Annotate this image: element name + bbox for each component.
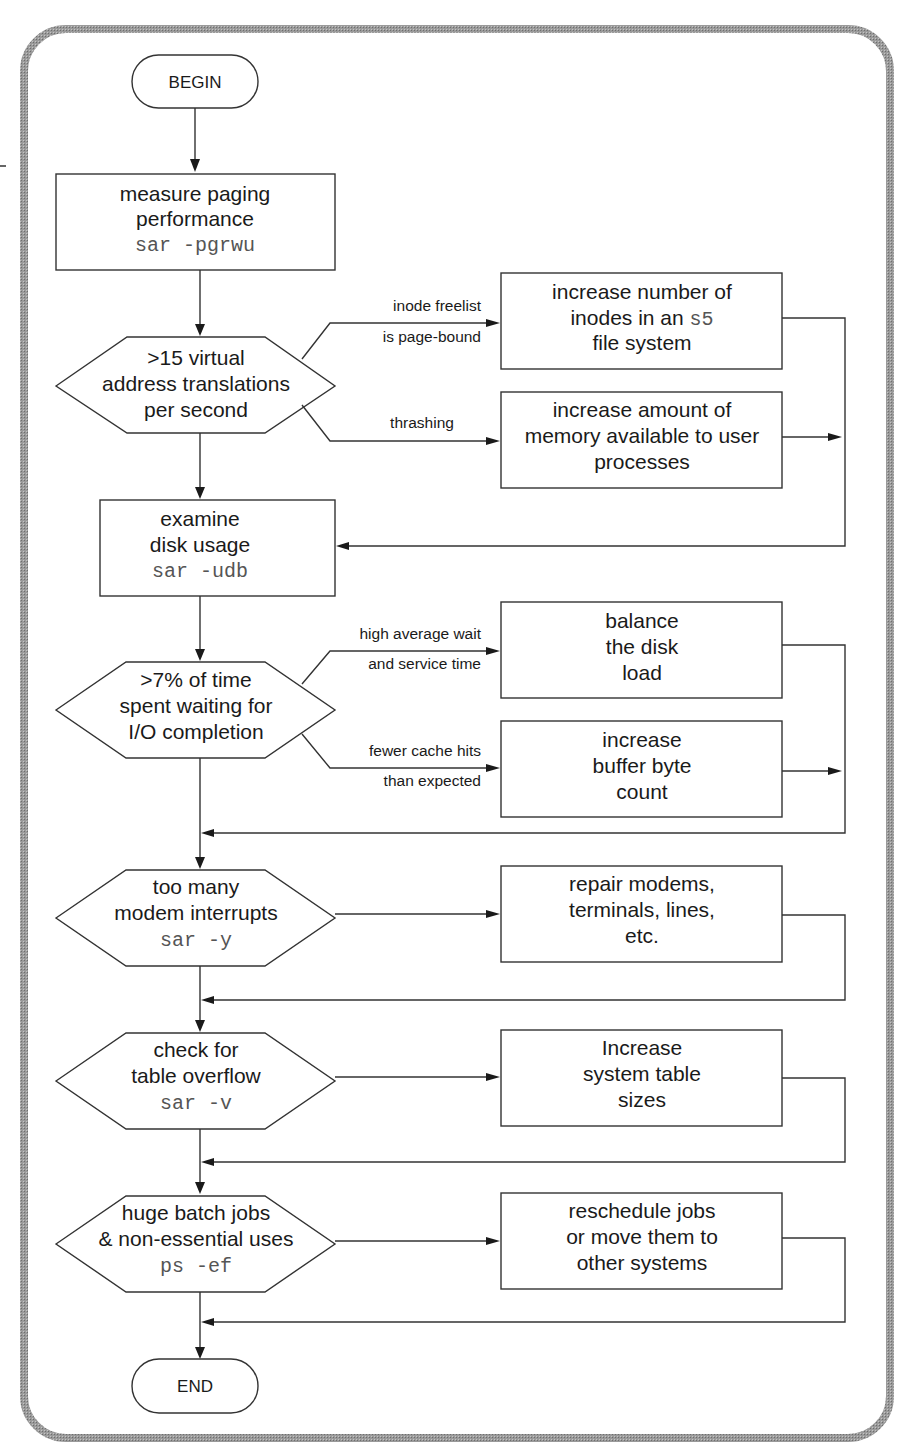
- arrow-down-icon: [195, 324, 205, 336]
- arrow-left-icon: [336, 542, 349, 550]
- arrow-down-icon: [195, 649, 205, 661]
- command-sar-v: sar -v: [160, 1092, 232, 1115]
- svg-text:than expected: than expected: [384, 772, 481, 789]
- command-s5: s5: [690, 308, 714, 331]
- svg-text:disk usage: disk usage: [150, 533, 250, 556]
- svg-text:etc.: etc.: [625, 924, 659, 947]
- arrow-left-icon: [201, 829, 214, 837]
- action-reschedule-jobs: reschedule jobs or move them to other sy…: [501, 1193, 782, 1289]
- action-increase-buffer: increase buffer byte count: [501, 721, 782, 817]
- svg-text:table overflow: table overflow: [131, 1064, 261, 1087]
- command-sar-pgrwu: sar -pgrwu: [135, 234, 255, 257]
- arrow-down-icon: [195, 1347, 205, 1359]
- begin-terminator: BEGIN: [132, 55, 258, 108]
- decision-batch-jobs: huge batch jobs & non-essential uses ps …: [56, 1196, 335, 1292]
- svg-text:system table: system table: [583, 1062, 701, 1085]
- arrow-down-icon: [195, 487, 205, 499]
- arrow-right-icon: [828, 433, 842, 441]
- svg-text:high average wait: high average wait: [360, 625, 482, 642]
- action-increase-inodes: increase number of inodes in an s5 file …: [501, 273, 782, 369]
- svg-text:performance: performance: [136, 207, 254, 230]
- end-terminator: END: [132, 1359, 258, 1413]
- arrow-down-icon: [195, 857, 205, 869]
- svg-text:memory available to user: memory available to user: [525, 424, 760, 447]
- command-sar-y: sar -y: [160, 929, 232, 952]
- svg-text:>15 virtual: >15 virtual: [147, 346, 244, 369]
- arrow-right-icon: [486, 319, 500, 327]
- svg-text:increase: increase: [602, 728, 681, 751]
- action-increase-system-tables: Increase system table sizes: [501, 1030, 782, 1126]
- arrow-down-icon: [195, 1182, 205, 1194]
- action-increase-memory: increase amount of memory available to u…: [501, 392, 782, 488]
- arrow-right-icon: [486, 1237, 500, 1245]
- svg-text:reschedule jobs: reschedule jobs: [568, 1199, 715, 1222]
- svg-text:file system: file system: [592, 331, 691, 354]
- svg-text:spent waiting for: spent waiting for: [120, 694, 273, 717]
- svg-text:is page-bound: is page-bound: [383, 328, 481, 345]
- arrow-right-icon: [486, 437, 500, 445]
- command-sar-udb: sar -udb: [152, 560, 248, 583]
- svg-text:fewer cache hits: fewer cache hits: [369, 742, 481, 759]
- end-label: END: [177, 1377, 213, 1396]
- decision-table-overflow: check for table overflow sar -v: [56, 1033, 335, 1129]
- command-ps-ef: ps -ef: [160, 1255, 232, 1278]
- svg-text:inode freelist: inode freelist: [393, 297, 482, 314]
- svg-text:Increase: Increase: [602, 1036, 683, 1059]
- svg-text:inodes in an s5: inodes in an s5: [570, 306, 713, 331]
- svg-text:balance: balance: [605, 609, 679, 632]
- svg-text:too many: too many: [153, 875, 240, 898]
- svg-text:load: load: [622, 661, 662, 684]
- svg-text:>7% of time: >7% of time: [140, 668, 251, 691]
- action-repair-modems: repair modems, terminals, lines, etc.: [501, 866, 782, 962]
- svg-text:check for: check for: [153, 1038, 238, 1061]
- svg-text:address translations: address translations: [102, 372, 290, 395]
- decision-virtual-address-translations: >15 virtual address translations per sec…: [56, 337, 335, 433]
- svg-text:per second: per second: [144, 398, 248, 421]
- svg-text:increase amount of: increase amount of: [553, 398, 732, 421]
- svg-text:and service time: and service time: [368, 655, 481, 672]
- arrow-right-icon: [486, 647, 500, 655]
- step-measure-paging: measure paging performance sar -pgrwu: [56, 174, 335, 270]
- svg-text:increase number of: increase number of: [552, 280, 732, 303]
- arrow-right-icon: [828, 767, 842, 775]
- svg-text:terminals, lines,: terminals, lines,: [569, 898, 715, 921]
- svg-text:modem interrupts: modem interrupts: [114, 901, 277, 924]
- svg-text:or move them to: or move them to: [566, 1225, 718, 1248]
- svg-text:thrashing: thrashing: [390, 414, 454, 431]
- step-examine-disk-usage: examine disk usage sar -udb: [100, 500, 335, 596]
- decision-io-wait: >7% of time spent waiting for I/O comple…: [56, 662, 335, 758]
- arrow-down-icon: [190, 159, 200, 172]
- arrow-right-icon: [486, 764, 500, 772]
- svg-text:buffer byte: buffer byte: [593, 754, 692, 777]
- arrow-down-icon: [195, 1020, 205, 1032]
- svg-text:the disk: the disk: [606, 635, 679, 658]
- svg-text:processes: processes: [594, 450, 690, 473]
- arrow-left-icon: [201, 996, 214, 1004]
- svg-text:repair modems,: repair modems,: [569, 872, 715, 895]
- svg-text:I/O completion: I/O completion: [128, 720, 263, 743]
- svg-text:sizes: sizes: [618, 1088, 666, 1111]
- arrow-left-icon: [201, 1158, 214, 1166]
- svg-text:& non-essential uses: & non-essential uses: [99, 1227, 294, 1250]
- decision-modem-interrupts: too many modem interrupts sar -y: [56, 870, 335, 966]
- svg-text:count: count: [616, 780, 668, 803]
- arrow-right-icon: [486, 1073, 500, 1081]
- arrow-left-icon: [201, 1318, 214, 1326]
- svg-text:other systems: other systems: [577, 1251, 708, 1274]
- action-balance-disk-load: balance the disk load: [501, 602, 782, 698]
- arrow-right-icon: [486, 910, 500, 918]
- svg-text:examine: examine: [160, 507, 239, 530]
- svg-text:measure paging: measure paging: [120, 182, 271, 205]
- begin-label: BEGIN: [169, 73, 222, 92]
- flowchart-canvas: BEGIN measure paging performance sar -pg…: [0, 0, 910, 1455]
- svg-text:huge batch jobs: huge batch jobs: [122, 1201, 270, 1224]
